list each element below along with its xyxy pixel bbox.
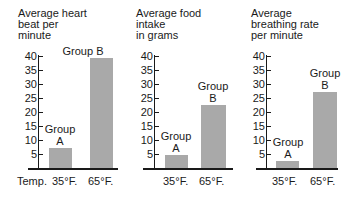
group-b-label: Group B [306,67,344,91]
bar-group-b [313,92,337,168]
y-tick-label: 10 [133,135,153,146]
x-axis-baseline [256,168,338,170]
y-tick-mark [38,140,43,141]
y-tick-label: 40 [133,51,153,62]
y-tick-mark [38,98,43,99]
y-tick-label: 25 [17,93,37,104]
x-tick-35f: 35°F. [272,176,297,187]
y-tick-mark [266,140,271,141]
group-a-label: Group A [270,136,306,160]
y-tick-label: 10 [245,135,265,146]
y-tick-label: 25 [133,93,153,104]
y-tick-mark [266,112,271,113]
y-tick-label: 35 [245,65,265,76]
y-tick-label: 5 [17,149,37,160]
y-tick-mark [38,84,43,85]
y-tick-mark [38,112,43,113]
x-tick-65f: 65°F. [310,176,335,187]
y-tick-mark [154,70,159,71]
y-tick-label: 40 [17,51,37,62]
y-tick-mark [266,70,271,71]
y-tick-label: 15 [17,121,37,132]
y-tick-label: 35 [17,65,37,76]
y-tick-mark [154,140,159,141]
y-tick-label: 25 [245,93,265,104]
y-tick-mark [154,154,159,155]
y-tick-label: 30 [133,79,153,90]
y-tick-label: 20 [133,107,153,118]
y-tick-mark [38,126,43,127]
y-tick-mark [154,98,159,99]
y-tick-label: 35 [133,65,153,76]
chart-breathing-rate: Average breathing rate per minute Group … [0,0,358,198]
y-tick-mark [154,56,159,57]
y-tick-mark [154,126,159,127]
y-tick-label: 30 [245,79,265,90]
y-tick-label: 20 [17,107,37,118]
y-tick-mark [38,56,43,57]
y-tick-label: 5 [133,149,153,160]
y-tick-mark [266,98,271,99]
y-tick-mark [154,112,159,113]
y-tick-mark [154,84,159,85]
y-tick-mark [38,154,43,155]
y-tick-label: 15 [133,121,153,132]
y-tick-label: 15 [245,121,265,132]
y-tick-label: 5 [245,149,265,160]
y-tick-mark [38,70,43,71]
y-tick-mark [266,126,271,127]
y-tick-mark [266,84,271,85]
y-tick-label: 30 [17,79,37,90]
bar-group-a [276,161,299,168]
y-tick-mark [266,56,271,57]
y-tick-label: 40 [245,51,265,62]
y-tick-label: 10 [17,135,37,146]
y-tick-mark [266,154,271,155]
y-tick-label: 20 [245,107,265,118]
chart-title: Average breathing rate per minute [251,8,319,41]
